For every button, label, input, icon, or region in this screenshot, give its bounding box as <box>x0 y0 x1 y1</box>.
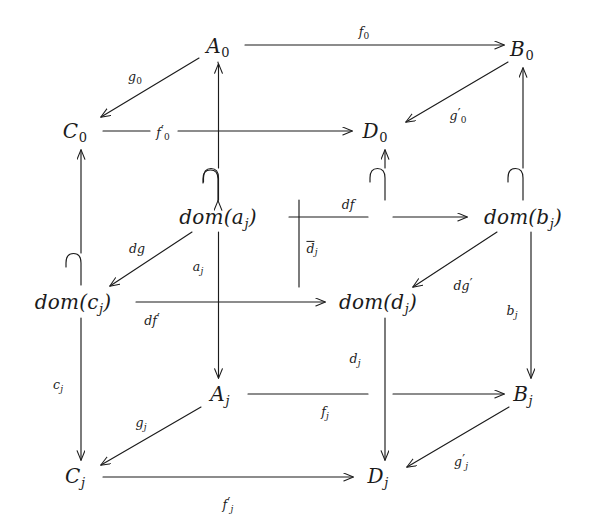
edge-label-f0p-sub: 0 <box>164 131 170 141</box>
edge-label-f0p-base: f <box>156 125 161 140</box>
node-Bj-label: B <box>513 382 528 406</box>
edge-label-fjp-sub: j <box>231 503 234 513</box>
edge-label-g0: g0 <box>128 71 142 86</box>
node-Cj-label: C <box>65 464 81 488</box>
node-Bj: Bj <box>513 384 533 407</box>
node-D0-sub: 0 <box>379 129 387 144</box>
node-Aj-label: A <box>210 382 225 406</box>
node-dom-dj: dom(dj) <box>339 292 417 315</box>
edge-label-bj-sub: j <box>515 309 518 319</box>
edge-label-gj-sub: j <box>144 421 147 431</box>
node-dom-aj-label: dom(a <box>179 205 244 229</box>
edge-label-dfp-prime: ′ <box>157 311 160 326</box>
node-dom-bj-tail: ) <box>554 205 562 229</box>
node-B0-label: B <box>510 37 525 61</box>
node-Cj-sub: j <box>81 474 85 489</box>
edge-label-cj: cj <box>53 379 63 394</box>
edge-label-dbarj-sub: j <box>315 247 318 257</box>
node-dom-aj: dom(aj) <box>179 207 256 230</box>
edge-label-dj-sub: j <box>358 357 361 367</box>
edge-label-df: df <box>342 199 355 212</box>
edge-label-gjp-base: g <box>454 454 462 469</box>
edge-label-f0-sub: 0 <box>364 30 370 40</box>
edge-label-fj-base: f <box>321 404 326 419</box>
node-A0-label: A <box>206 34 221 58</box>
node-Aj-sub: j <box>225 392 229 407</box>
edge-label-aj-base: a <box>193 259 200 274</box>
node-Cj: Cj <box>65 466 85 489</box>
node-Dj-sub: j <box>384 474 388 489</box>
node-Dj-label: D <box>368 464 384 488</box>
diagram-canvas: A0 B0 C0 D0 dom(aj) dom(bj) dom(cj) dom(… <box>0 0 593 532</box>
edge-label-gjp-sub: j <box>465 460 468 470</box>
edge-mono-a <box>203 170 218 201</box>
edge-label-df-prime: df′ <box>144 313 160 328</box>
edge-label-g0p-sub: 0 <box>461 114 467 124</box>
edge-label-cj-base: c <box>53 377 60 392</box>
edge-label-fj-sub: j <box>326 410 329 420</box>
node-dom-cj: dom(cj) <box>35 292 112 315</box>
mono-group-b <box>508 169 523 201</box>
mono-group-c <box>66 254 81 286</box>
edge-label-df-base: df <box>342 197 355 212</box>
node-dom-dj-tail: ) <box>409 290 417 314</box>
node-dom-cj-label: dom(c <box>35 290 99 314</box>
node-Dj: Dj <box>368 466 389 489</box>
node-C0: C0 <box>63 121 88 144</box>
edge-label-dj-base: d <box>349 351 357 366</box>
edge-label-dg-base: dg <box>129 241 145 256</box>
edge-label-gj-base: g <box>135 415 143 430</box>
edge-label-dgp-base: dg <box>453 278 469 293</box>
edge-label-g0-prime: g′0 <box>449 108 466 125</box>
node-D0: D0 <box>362 121 387 144</box>
node-dom-bj: dom(bj) <box>484 207 562 230</box>
edge-g0 <box>101 58 199 117</box>
node-B0: B0 <box>510 39 534 62</box>
diagram-edges <box>0 0 593 532</box>
edge-label-bj-base: b <box>506 303 514 318</box>
node-C0-sub: 0 <box>79 129 87 144</box>
edge-label-dbar-j: dj <box>306 241 317 257</box>
node-Aj: Aj <box>210 384 229 407</box>
node-dom-aj-tail: ) <box>249 205 257 229</box>
edge-label-dfp-base: df <box>144 313 157 328</box>
edge-label-aj-sub: j <box>200 265 203 275</box>
edge-label-f0-prime: f′0 <box>156 125 170 142</box>
edge-label-gj: gj <box>135 417 146 432</box>
edge-label-g0p-base: g <box>449 108 457 123</box>
node-dom-dj-label: dom(d <box>339 290 404 314</box>
edge-label-aj: aj <box>193 261 204 276</box>
edge-label-cj-sub: j <box>60 383 63 393</box>
edge-label-fjp-base: f <box>223 497 228 512</box>
edge-gj <box>101 407 201 465</box>
node-A0-sub: 0 <box>221 44 229 59</box>
edge-label-dg-prime: dg′ <box>453 278 472 293</box>
edge-label-dg: dg <box>129 243 145 256</box>
edge-label-dbarj-base: d <box>306 241 314 255</box>
node-A0: A0 <box>206 36 230 59</box>
edge-label-bj: bj <box>506 305 517 320</box>
node-Bj-sub: j <box>529 392 533 407</box>
edge-dg <box>110 232 192 286</box>
edge-label-g0-sub: 0 <box>136 75 142 85</box>
node-B0-sub: 0 <box>525 47 533 62</box>
edge-label-fj-prime: f′j <box>223 497 234 514</box>
edge-label-f0: f0 <box>359 26 370 41</box>
node-D0-label: D <box>362 119 378 143</box>
edge-label-fj: fj <box>321 406 329 421</box>
edge-label-gj-prime: g′j <box>454 454 468 471</box>
node-C0-label: C <box>63 119 79 143</box>
edge-label-dgp-prime: ′ <box>470 276 473 291</box>
node-dom-cj-tail: ) <box>103 290 111 314</box>
edge-label-g0-base: g <box>128 69 136 84</box>
edge-label-dj: dj <box>349 353 360 368</box>
edge-label-f0-base: f <box>359 24 364 39</box>
node-dom-bj-label: dom(b <box>484 205 549 229</box>
mono-group-d <box>370 169 385 201</box>
